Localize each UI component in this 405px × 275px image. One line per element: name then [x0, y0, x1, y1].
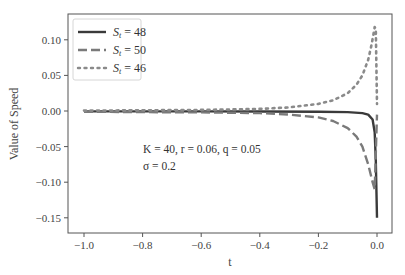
legend-label-0: St = 48 [113, 25, 146, 40]
annotation-params: K = 40, r = 0.06, q = 0.05 [143, 143, 261, 156]
x-tick-label: 0.0 [370, 239, 384, 251]
y-axis-label: Value of Speed [7, 88, 21, 161]
line-chart: −1.0−0.8−0.6−0.4−0.20.0 0.100.050.00−0.0… [0, 0, 405, 275]
y-axis-ticks: 0.100.050.00−0.05−0.10−0.15 [36, 34, 68, 224]
x-tick-label: −0.2 [308, 239, 328, 251]
annotation-sigma: σ = 0.2 [143, 160, 176, 172]
y-tick-label: −0.10 [36, 176, 62, 188]
legend-label-2: St = 46 [113, 61, 146, 76]
y-tick-label: 0.05 [42, 69, 62, 81]
y-tick-label: 0.00 [42, 105, 62, 117]
legend-label-1: St = 50 [113, 43, 146, 58]
y-tick-label: 0.10 [42, 34, 62, 46]
x-axis-ticks: −1.0−0.8−0.6−0.4−0.20.0 [74, 233, 384, 251]
x-tick-label: −1.0 [74, 239, 94, 251]
x-tick-label: −0.6 [191, 239, 211, 251]
x-axis-label: t [228, 255, 232, 269]
y-tick-label: −0.05 [36, 141, 62, 153]
x-tick-label: −0.8 [133, 239, 153, 251]
y-tick-label: −0.15 [36, 212, 62, 224]
x-tick-label: −0.4 [250, 239, 270, 251]
legend: St = 48St = 50St = 46 [73, 19, 146, 80]
series-line-0 [84, 111, 377, 217]
